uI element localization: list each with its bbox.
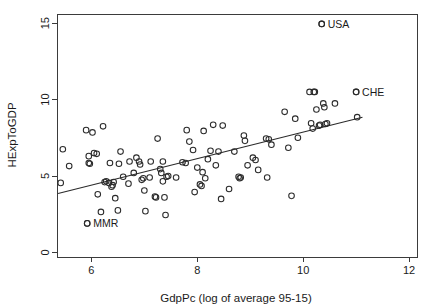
data-point <box>208 148 214 154</box>
y-tick-label: 0 <box>39 249 51 255</box>
data-point <box>66 163 72 169</box>
data-point <box>202 175 208 181</box>
data-point <box>140 175 146 181</box>
data-point <box>112 195 118 201</box>
data-point <box>289 193 295 199</box>
data-point <box>282 109 288 115</box>
data-point <box>116 161 122 167</box>
point-label-usa: USA <box>328 18 350 30</box>
point-label-mmr: MMR <box>93 217 118 229</box>
data-point <box>295 135 301 141</box>
data-point <box>173 175 179 181</box>
data-point <box>58 180 64 186</box>
data-point <box>314 107 320 113</box>
x-axis-ticks: 681012 <box>88 257 415 276</box>
data-point <box>83 127 89 133</box>
annotated-data-point <box>84 221 90 227</box>
data-point <box>98 209 104 215</box>
data-point <box>60 146 66 152</box>
annotated-data-point <box>319 21 325 27</box>
data-point <box>322 104 328 110</box>
data-point <box>308 120 314 126</box>
data-point <box>162 195 168 201</box>
data-point <box>90 130 96 136</box>
data-point <box>286 145 292 151</box>
data-point <box>245 163 251 169</box>
x-tick-label: 12 <box>403 264 415 276</box>
data-point <box>241 133 247 139</box>
data-point <box>264 175 270 181</box>
point-label-che: CHE <box>362 86 384 98</box>
data-point <box>255 167 261 173</box>
data-point <box>100 124 106 130</box>
data-point <box>95 192 101 198</box>
data-point <box>213 163 219 169</box>
data-point <box>200 169 206 175</box>
data-point <box>242 138 248 144</box>
data-point <box>160 159 166 165</box>
y-tick-label: 5 <box>39 173 51 179</box>
data-point <box>226 186 232 192</box>
data-point <box>210 122 216 128</box>
data-point <box>163 212 169 218</box>
data-point <box>142 188 148 194</box>
data-point <box>187 139 193 145</box>
data-point <box>192 189 198 195</box>
data-point <box>86 153 92 159</box>
data-point <box>201 128 207 134</box>
x-axis-title: GdpPc (log of average 95-15) <box>160 292 312 304</box>
data-point <box>155 136 161 142</box>
data-point <box>143 208 149 214</box>
data-point <box>194 165 200 171</box>
data-point <box>197 182 203 188</box>
data-point <box>184 127 190 133</box>
data-point <box>148 159 154 165</box>
data-point <box>127 159 133 165</box>
x-tick-label: 6 <box>88 264 94 276</box>
data-point <box>199 183 205 189</box>
data-point <box>118 149 124 155</box>
data-point <box>205 156 211 162</box>
y-axis-ticks: 051015 <box>39 17 57 255</box>
data-point <box>320 101 326 107</box>
data-point <box>147 175 153 181</box>
data-point <box>220 123 226 129</box>
data-point <box>126 181 132 187</box>
data-point <box>190 147 196 153</box>
y-axis-title: HExpToGDP <box>6 102 18 168</box>
data-point <box>115 208 121 214</box>
x-tick-label: 10 <box>297 264 309 276</box>
plot-canvas: 681012 051015 USACHEMMR GdpPc (log of av… <box>0 0 436 308</box>
x-tick-label: 8 <box>194 264 200 276</box>
y-tick-label: 15 <box>39 17 51 29</box>
data-point <box>332 101 338 107</box>
scatter-plot-figure: 681012 051015 USACHEMMR GdpPc (log of av… <box>0 0 436 308</box>
data-points <box>58 21 360 226</box>
data-point <box>218 196 224 202</box>
y-tick-label: 10 <box>39 93 51 105</box>
annotated-data-point <box>353 89 359 95</box>
data-point <box>158 170 164 176</box>
data-point <box>292 116 298 122</box>
data-point <box>107 160 113 166</box>
data-point <box>139 177 145 183</box>
data-point <box>269 142 275 148</box>
